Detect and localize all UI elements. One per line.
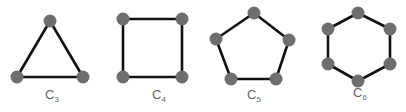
graph-label: C4	[152, 87, 166, 104]
vertex-node	[176, 13, 189, 26]
vertex-node	[248, 7, 261, 20]
vertex-node	[77, 71, 90, 84]
vertex-node	[11, 71, 24, 84]
graph-label: C5	[247, 87, 261, 104]
graph-c6: C6	[322, 7, 397, 103]
vertex-node	[210, 33, 223, 46]
vertex-node	[117, 13, 130, 26]
edge	[254, 13, 289, 40]
vertex-node	[283, 34, 296, 47]
edge	[216, 13, 254, 39]
graph-c3: C3	[11, 15, 90, 105]
vertex-node	[384, 58, 397, 71]
vertex-node	[384, 23, 397, 36]
graph-c5: C5	[210, 7, 296, 105]
edge	[50, 21, 83, 77]
vertex-node	[176, 71, 189, 84]
vertex-node	[270, 73, 283, 86]
vertex-node	[117, 71, 130, 84]
vertex-node	[225, 73, 238, 86]
edge	[17, 21, 50, 77]
vertex-node	[322, 58, 335, 71]
graph-label: C3	[45, 87, 59, 104]
graph-c4: C4	[117, 13, 189, 105]
vertex-node	[322, 23, 335, 36]
vertex-node	[44, 15, 57, 28]
graph-label: C6	[353, 85, 367, 102]
cycle-graphs-diagram: C3 C4 C5 C6	[0, 0, 406, 112]
vertex-node	[352, 7, 365, 20]
